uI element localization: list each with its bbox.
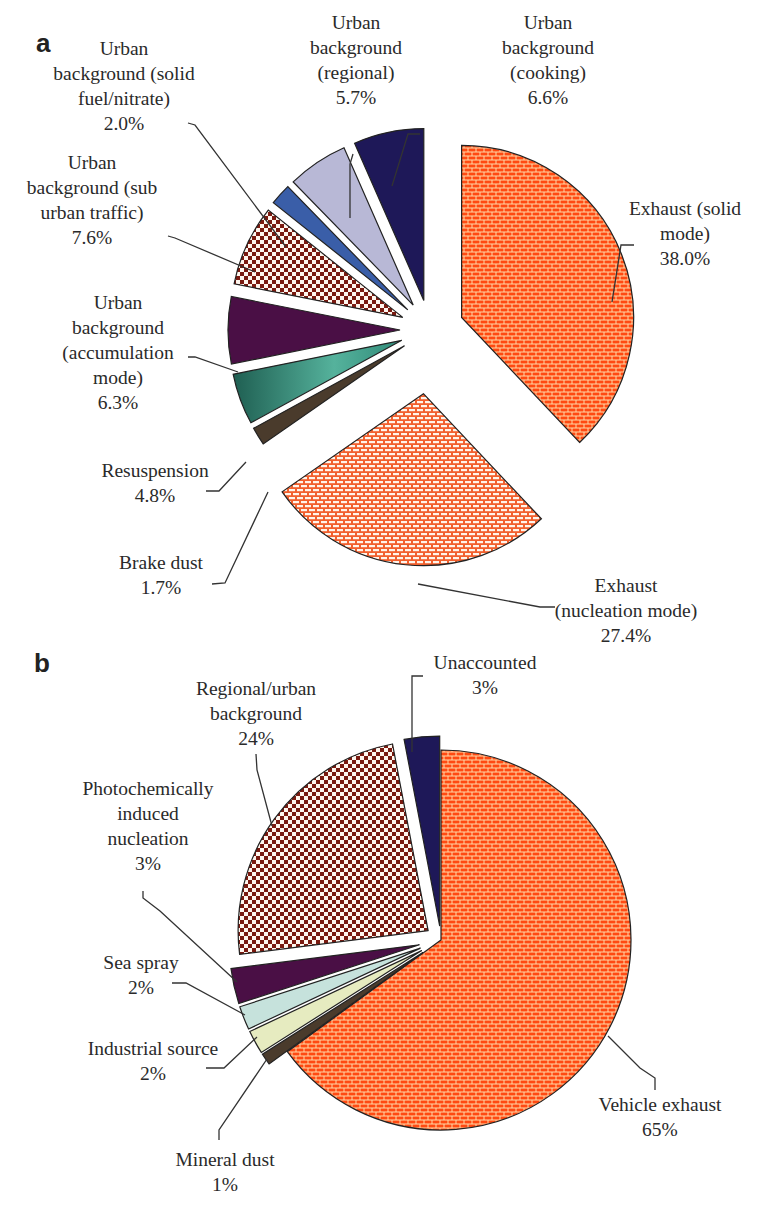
leader-resuspension bbox=[206, 462, 246, 491]
label-unaccounted: Unaccounted3% bbox=[434, 650, 537, 700]
leader-mineral bbox=[219, 1059, 267, 1140]
leader-sub-urban bbox=[168, 236, 255, 272]
pie-slice-regional-urban-background bbox=[238, 744, 428, 954]
label-cooking: Urbanbackground(cooking)6.6% bbox=[502, 10, 594, 110]
pie-slice-exhaust-nucleation-mode bbox=[282, 394, 541, 566]
label-solid-mode: Exhaust (solidmode)38.0% bbox=[629, 196, 741, 271]
pie-slice-exhaust-solid-mode bbox=[462, 145, 634, 442]
leader-vehicle bbox=[608, 1036, 655, 1090]
label-mineral: Mineral dust1% bbox=[175, 1147, 274, 1197]
label-regional-urban: Regional/urbanbackground24% bbox=[196, 676, 316, 751]
label-resuspension: Resuspension4.8% bbox=[101, 458, 208, 508]
pie-chart-b bbox=[231, 736, 631, 1130]
leader-nucleation bbox=[418, 584, 555, 607]
leader-regional-urban bbox=[256, 754, 272, 826]
label-solid-fuel: Urbanbackground (solidfuel/nitrate)2.0% bbox=[53, 36, 194, 136]
label-nucleation: Exhaust(nucleation mode)27.4% bbox=[555, 573, 697, 648]
label-brake: Brake dust1.7% bbox=[119, 550, 203, 600]
label-sub-urban: Urbanbackground (suburban traffic)7.6% bbox=[27, 150, 158, 250]
label-photochem: Photochemicallyinducednucleation3% bbox=[82, 776, 213, 876]
label-vehicle: Vehicle exhaust65% bbox=[599, 1092, 722, 1142]
label-industrial: Industrial source2% bbox=[88, 1036, 219, 1086]
label-sea-spray: Sea spray2% bbox=[103, 950, 178, 1000]
pie-chart-a bbox=[228, 129, 634, 566]
leader-brake bbox=[212, 492, 268, 584]
label-regional: Urbanbackground(regional)5.7% bbox=[310, 10, 402, 110]
label-accumulation: Urbanbackground(accumulationmode)6.3% bbox=[62, 290, 174, 415]
